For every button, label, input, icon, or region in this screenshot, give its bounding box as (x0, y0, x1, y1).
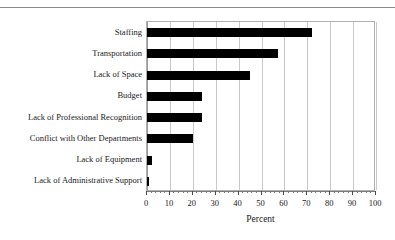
bar (147, 113, 202, 122)
tick-minor (242, 191, 243, 193)
tick-minor (279, 191, 280, 193)
tick-minor (160, 191, 161, 193)
category-label: Staffing (0, 27, 142, 37)
bar-row (147, 128, 374, 149)
tick-minor (251, 191, 252, 193)
tick-minor (187, 191, 188, 193)
tick-major (375, 191, 376, 195)
x-axis-tick-labels: 0102030405060708090100 (146, 198, 375, 210)
tick-major (261, 191, 262, 195)
tick-major (283, 191, 284, 195)
x-tick-label: 0 (144, 198, 148, 209)
tick-major (352, 191, 353, 195)
tick-minor (320, 191, 321, 193)
tick-minor (370, 191, 371, 193)
x-tick-label: 40 (233, 198, 242, 209)
bar-row (147, 107, 374, 128)
tick-minor (338, 191, 339, 193)
bar (147, 177, 149, 186)
bar (147, 92, 202, 101)
x-tick-label: 90 (348, 198, 357, 209)
tick-minor (183, 191, 184, 193)
plot-area (146, 21, 375, 191)
tick-major (169, 191, 170, 195)
tick-minor (297, 191, 298, 193)
bar-chart-figure: StaffingTransportationLack of SpaceBudge… (0, 0, 395, 240)
tick-minor (293, 191, 294, 193)
tick-minor (173, 191, 174, 193)
tick-minor (224, 191, 225, 193)
category-label: Lack of Professional Recognition (0, 112, 142, 122)
x-tick-label: 70 (302, 198, 311, 209)
tick-minor (288, 191, 289, 193)
tick-major (215, 191, 216, 195)
tick-minor (334, 191, 335, 193)
gridline-100 (376, 22, 377, 190)
x-axis-title: Percent (146, 213, 375, 225)
x-tick-label: 60 (279, 198, 288, 209)
tick-minor (164, 191, 165, 193)
bar-row (147, 65, 374, 86)
bar (147, 49, 278, 58)
category-label: Lack of Administrative Support (0, 175, 142, 185)
tick-minor (315, 191, 316, 193)
bar-row (147, 86, 374, 107)
x-tick-label: 100 (369, 198, 382, 209)
category-label: Conflict with Other Departments (0, 133, 142, 143)
bar (147, 134, 193, 143)
tick-minor (256, 191, 257, 193)
tick-minor (206, 191, 207, 193)
x-tick-label: 10 (165, 198, 174, 209)
tick-minor (274, 191, 275, 193)
bar-series (147, 22, 374, 190)
category-label: Budget (0, 90, 142, 100)
tick-minor (201, 191, 202, 193)
category-label: Lack of Space (0, 69, 142, 79)
tick-minor (311, 191, 312, 193)
tick-minor (366, 191, 367, 193)
x-tick-label: 20 (188, 198, 197, 209)
tick-minor (325, 191, 326, 193)
tick-minor (233, 191, 234, 193)
tick-minor (196, 191, 197, 193)
tick-minor (247, 191, 248, 193)
x-tick-label: 50 (256, 198, 265, 209)
bar-row (147, 22, 374, 43)
tick-minor (210, 191, 211, 193)
tick-minor (219, 191, 220, 193)
bar (147, 71, 250, 80)
tick-minor (155, 191, 156, 193)
category-axis-labels: StaffingTransportationLack of SpaceBudge… (0, 21, 142, 191)
x-tick-label: 30 (210, 198, 219, 209)
x-tick-label: 80 (325, 198, 334, 209)
bar-row (147, 171, 374, 192)
tick-minor (361, 191, 362, 193)
tick-minor (357, 191, 358, 193)
tick-minor (343, 191, 344, 193)
tick-major (306, 191, 307, 195)
bar-row (147, 43, 374, 64)
category-label: Lack of Equipment (0, 154, 142, 164)
tick-major (329, 191, 330, 195)
bar-row (147, 150, 374, 171)
tick-minor (302, 191, 303, 193)
tick-minor (348, 191, 349, 193)
tick-minor (270, 191, 271, 193)
category-label: Transportation (0, 48, 142, 58)
bar (147, 28, 312, 37)
tick-minor (265, 191, 266, 193)
tick-minor (151, 191, 152, 193)
x-axis-ticks (146, 191, 375, 196)
bar (147, 156, 152, 165)
tick-minor (228, 191, 229, 193)
tick-major (192, 191, 193, 195)
tick-major (146, 191, 147, 195)
tick-major (238, 191, 239, 195)
tick-minor (178, 191, 179, 193)
